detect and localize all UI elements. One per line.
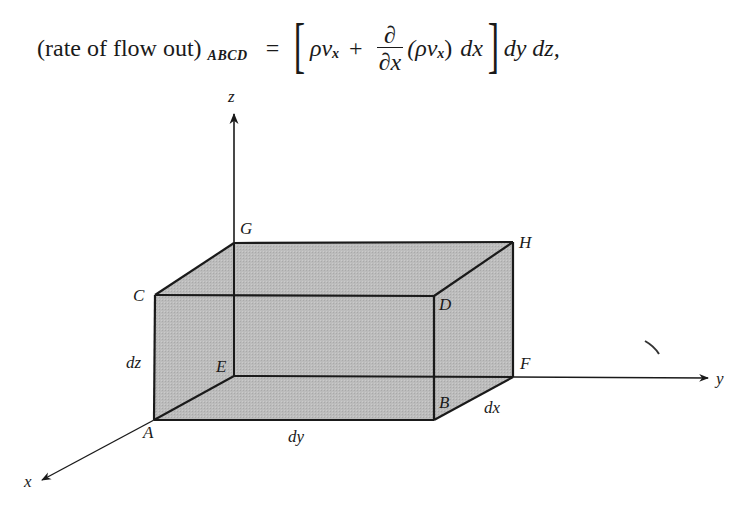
vertex-label-b: B [439,393,450,412]
x-axis [42,420,154,480]
dimension-label-dz: dz [126,353,142,372]
vertex-label-d: D [438,295,452,314]
y-axis-label: y [714,369,724,388]
dimension-label-dy: dy [288,427,305,446]
control-volume-diagram: z y x G H C D E F B A dz dy dx [0,0,748,510]
stray-mark [645,341,659,354]
vertex-label-f: F [519,354,531,373]
box-fill [154,242,513,420]
vertex-label-e: E [215,357,227,376]
vertex-label-g: G [240,219,252,238]
vertex-label-h: H [518,233,533,252]
y-axis [513,377,708,378]
z-axis-label: z [227,87,235,106]
x-axis-label: x [23,472,32,491]
vertex-label-c: C [133,286,145,305]
dimension-label-dx: dx [484,398,501,417]
vertex-label-a: A [142,423,154,442]
